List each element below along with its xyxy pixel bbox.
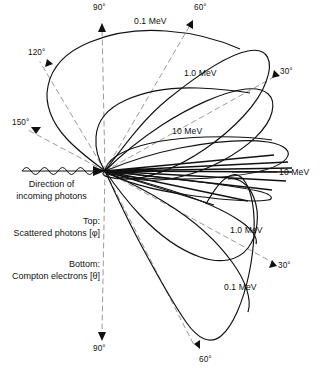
curve-label-photon-0p1mev: 0.1 MeV [134,16,167,27]
arrowhead-bot-90-icon [98,332,106,341]
curve-label-photon-1p0mev: 1.0 MeV [184,68,217,79]
bottom-half-caption-line2: Compton electrons [θ] [0,271,100,283]
photon-lobes [47,30,288,180]
electron-lobes [105,155,292,340]
angle-label-bottom-30: 30° [278,261,291,272]
angle-label-bottom-60: 60° [199,355,212,366]
angle-label-top-60: 60° [194,3,207,14]
angle-label-bottom-90: 90° [93,344,106,355]
curve-label-electron-1p0mev: 1.0 MeV [230,225,263,236]
arrowhead-top-120-icon [45,59,53,67]
top-half-caption-line2: Scattered photons [φ] [0,228,100,240]
ray-60-bot [105,171,194,345]
bottom-half-caption: Bottom: Compton electrons [θ] [0,259,100,282]
ray-90-top [102,24,105,171]
photon-ray-bundle-upper [105,155,292,171]
top-half-caption-line1: Top: [0,216,100,228]
arrowhead-bot-60-icon [194,340,200,349]
incoming-photon-beam [22,166,105,176]
incoming-beam-caption-line2: incoming photons [0,191,103,203]
curve-label-photon-10mev: 10 MeV [172,126,202,137]
arrowhead-top-30-icon [272,70,280,78]
arrowhead-top-60-icon [186,20,193,29]
incoming-beam-caption-line1: Direction of [0,179,103,191]
angle-label-top-120: 120° [28,48,45,59]
electron-lobe-0p1mev [105,171,254,340]
ray-60-top [105,27,189,171]
angle-label-top-150: 150° [12,118,29,129]
curve-label-electron-0p1mev: 0.1 MeV [224,282,257,293]
top-half-caption: Top: Scattered photons [φ] [0,216,100,239]
arrowhead-top-90-icon [98,23,106,32]
arrowhead-bot-30-icon [269,260,277,268]
photon-lobe-0p1mev-left [47,30,240,171]
angle-label-top-30: 30° [280,67,293,78]
curve-label-electron-10mev: 10 MeV [279,167,309,178]
ray-150-top [28,130,105,171]
electron-ray-bundle [105,171,292,205]
bottom-half-caption-line1: Bottom: [0,259,100,271]
photon-lobe-10mev-inner [105,137,272,171]
angle-label-top-90: 90° [93,3,106,14]
incoming-beam-caption: Direction of incoming photons [0,179,103,202]
